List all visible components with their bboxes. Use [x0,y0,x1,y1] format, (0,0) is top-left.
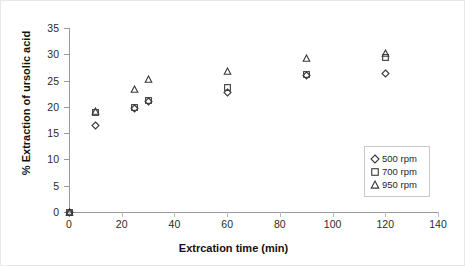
x-tick-label: 0 [49,218,89,230]
legend-item-950-rpm[interactable]: 950 rpm [370,178,425,191]
legend-square-icon [370,167,380,177]
x-tick-label: 40 [154,218,194,230]
legend-item-label: 500 rpm [382,153,417,165]
x-tick-label: 60 [207,218,247,230]
x-tick-mark [174,212,175,217]
legend-item-label: 950 rpm [382,179,417,191]
x-tick-mark [122,212,123,217]
legend-item-label: 700 rpm [382,166,417,178]
x-tick-label: 80 [260,218,300,230]
x-tick-label: 20 [102,218,142,230]
y-tick-label: 35 [1,23,59,33]
y-tick-label: 5 [1,181,59,191]
y-tick-label: 15 [1,128,59,138]
y-tick-label: 0 [1,207,59,217]
legend-triangle-icon [370,180,380,190]
x-tick-mark [385,212,386,217]
x-tick-mark [333,212,334,217]
y-tick-label: 10 [1,154,59,164]
legend-item-500-rpm[interactable]: 500 rpm [370,152,425,165]
y-tick-label: 30 [1,49,59,59]
scatter-chart: % Extraction of ursolic acid Extrcation … [0,0,465,266]
chart-legend: 500 rpm700 rpm950 rpm [364,146,430,197]
x-tick-label: 120 [365,218,405,230]
x-tick-mark [69,212,70,217]
legend-item-700-rpm[interactable]: 700 rpm [370,165,425,178]
x-tick-label: 100 [313,218,353,230]
x-axis-title: Extrcation time (min) [1,242,465,254]
x-tick-mark [280,212,281,217]
x-tick-mark [227,212,228,217]
y-tick-label: 25 [1,76,59,86]
y-tick-label: 20 [1,102,59,112]
x-tick-label: 140 [418,218,458,230]
legend-diamond-icon [370,154,380,164]
x-tick-mark [438,212,439,217]
x-axis-line [69,212,439,213]
